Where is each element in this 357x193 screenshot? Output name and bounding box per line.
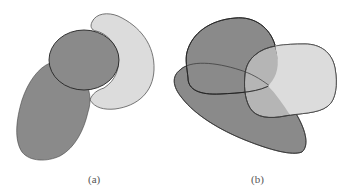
caption-a: (a) <box>88 173 100 185</box>
panel-b <box>174 18 336 153</box>
dark-circle-shape <box>49 30 119 90</box>
venn-figure <box>0 0 357 193</box>
panel-a <box>17 14 154 160</box>
caption-b: (b) <box>251 173 264 185</box>
